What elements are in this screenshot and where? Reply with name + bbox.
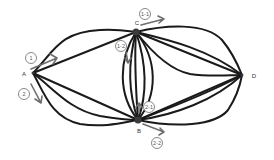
svg-text:1-1: 1-1 [141, 11, 149, 17]
node-label-a: A [22, 71, 26, 77]
step-badge-2-1: 2-1 [144, 102, 155, 113]
node-c-hub [133, 29, 140, 36]
svg-text:2-1: 2-1 [145, 104, 153, 110]
step-badge-1-2: 1-2 [116, 41, 127, 52]
node-d-hub [241, 74, 244, 77]
step-badge-2-2: 2-2 [152, 138, 163, 149]
svg-text:1-2: 1-2 [117, 43, 125, 49]
graph-diagram: 121-11-22-12-2 ACBD [0, 0, 274, 160]
node-label-c: C [135, 20, 140, 26]
diagram-canvas: 121-11-22-12-2 ACBD [0, 0, 274, 160]
step-badge-1-1: 1-1 [140, 9, 151, 20]
node-b-hub [135, 117, 142, 124]
arrow-2-2-icon [143, 124, 164, 135]
node-label-d: D [252, 73, 257, 79]
node-label-b: B [137, 128, 141, 134]
step-badge-2: 2 [19, 89, 30, 100]
step-badge-1: 1 [26, 53, 37, 64]
svg-text:1: 1 [29, 55, 32, 61]
svg-text:2-2: 2-2 [153, 140, 161, 146]
node-a-hub [32, 72, 35, 75]
svg-text:2: 2 [22, 91, 25, 97]
